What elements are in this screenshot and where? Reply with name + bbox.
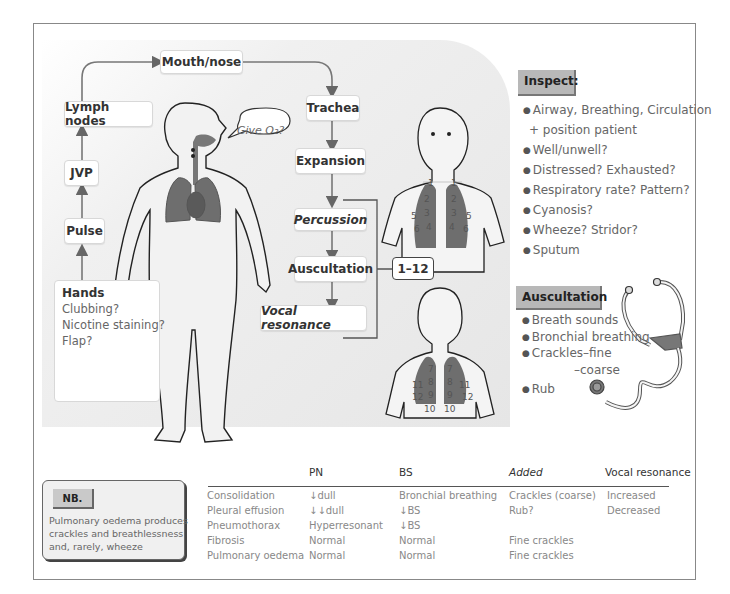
- inspect-item: ●Distressed? Exhausted?: [523, 160, 712, 180]
- table-cell: ↓BS: [399, 520, 420, 531]
- svg-text:10: 10: [444, 404, 456, 414]
- hands-item: Clubbing?: [62, 301, 152, 317]
- bullet-icon: ●: [522, 348, 530, 358]
- table-header-added: Added: [509, 466, 543, 478]
- hands-item: Flap?: [62, 333, 152, 349]
- svg-text:3: 3: [451, 208, 457, 218]
- svg-text:4: 4: [449, 222, 455, 232]
- svg-text:7: 7: [428, 364, 434, 374]
- svg-text:1: 1: [428, 178, 434, 188]
- svg-text:2: 2: [451, 194, 457, 204]
- table-cell: Bronchial breathing: [399, 490, 497, 501]
- svg-text:5: 5: [466, 211, 472, 221]
- vocal-resonance-label: Vocal resonance: [261, 304, 366, 332]
- table-header-bs: BS: [399, 466, 413, 478]
- pulse-label: Pulse: [66, 224, 103, 238]
- auscultation-item: ●Rub: [522, 381, 650, 398]
- box-pulse: Pulse: [64, 218, 105, 244]
- table-cell: Hyperresonant: [309, 520, 383, 531]
- auscultation-item: ●Breath sounds: [522, 312, 650, 329]
- table-cell: Fine crackles: [509, 550, 574, 561]
- mouth-nose-label: Mouth/nose: [162, 55, 241, 69]
- inspect-item: ●Airway, Breathing, Circulation: [523, 100, 712, 120]
- chest-points-label: 1–12: [392, 257, 434, 280]
- table-cell: Crackles (coarse): [509, 490, 596, 501]
- bullet-icon: ●: [523, 205, 531, 215]
- bullet-icon: ●: [522, 332, 530, 342]
- svg-text:6: 6: [463, 224, 469, 234]
- bullet-icon: ●: [523, 105, 531, 115]
- trachea-label: Trachea: [307, 101, 360, 115]
- box-percussion: Percussion: [294, 208, 367, 231]
- table-divider: [208, 486, 669, 487]
- box-expansion: Expansion: [295, 148, 366, 174]
- hands-item: Nicotine staining?: [62, 317, 152, 333]
- svg-text:9: 9: [447, 390, 453, 400]
- table-cell: Fibrosis: [207, 535, 244, 546]
- nb-note-box: NB. Pulmonary oedema produces crackles a…: [42, 480, 185, 560]
- table-cell: Pulmonary oedema: [207, 550, 304, 561]
- box-trachea: Trachea: [306, 95, 360, 121]
- svg-text:11: 11: [412, 380, 423, 390]
- auscultation-item: ●Crackles–fine: [522, 345, 650, 362]
- inspect-item: + position patient: [523, 120, 712, 140]
- inspect-item: ●Well/unwell?: [523, 140, 712, 160]
- svg-text:6: 6: [414, 224, 420, 234]
- inspect-item: ●Cyanosis?: [523, 200, 712, 220]
- svg-text:4: 4: [426, 222, 432, 232]
- inspect-item: ●Wheeze? Stridor?: [523, 220, 712, 240]
- bullet-icon: ●: [523, 165, 531, 175]
- hands-title: Hands: [62, 286, 152, 300]
- table-cell: Pneumothorax: [207, 520, 280, 531]
- table-cell: Pleural effusion: [207, 505, 284, 516]
- svg-text:10: 10: [424, 404, 436, 414]
- svg-text:11: 11: [459, 380, 470, 390]
- auscultation-heading: Auscultation: [516, 286, 602, 310]
- svg-text:5: 5: [411, 211, 417, 221]
- auscultation-label: Auscultation: [288, 262, 373, 276]
- bullet-icon: ●: [523, 225, 531, 235]
- inspect-list: ●Airway, Breathing, Circulation + positi…: [523, 100, 712, 260]
- speech-bubble-text: Give O₂?: [237, 124, 284, 137]
- inspect-heading: Inspect:: [518, 70, 576, 96]
- table-cell: Normal: [309, 550, 345, 561]
- svg-text:7: 7: [447, 364, 453, 374]
- table-header-vocal-resonance: Vocal resonance: [605, 466, 691, 478]
- box-jvp: JVP: [64, 160, 99, 186]
- inspect-item: ●Sputum: [523, 240, 712, 260]
- back-chest-figure: 77 88 99 1010 1111 1212: [386, 288, 494, 418]
- bullet-icon: ●: [522, 315, 530, 325]
- table-cell: Decreased: [607, 505, 660, 516]
- auscultation-item: ●Bronchial breathing: [522, 329, 650, 346]
- table-header-pn: PN: [309, 466, 323, 478]
- percussion-label: Percussion: [294, 213, 367, 227]
- inspect-item: ●Respiratory rate? Pattern?: [523, 180, 712, 200]
- box-mouth-nose: Mouth/nose: [160, 50, 243, 74]
- svg-text:9: 9: [428, 390, 434, 400]
- svg-text:8: 8: [428, 377, 434, 387]
- svg-text:3: 3: [424, 208, 430, 218]
- bullet-icon: ●: [523, 185, 531, 195]
- table-cell: Increased: [607, 490, 656, 501]
- table-cell: Fine crackles: [509, 535, 574, 546]
- svg-text:8: 8: [447, 377, 453, 387]
- table-cell: Rub?: [509, 505, 534, 516]
- hands-box: Hands Clubbing? Nicotine staining? Flap?: [54, 280, 160, 402]
- svg-text:2: 2: [424, 194, 430, 204]
- bullet-icon: ●: [523, 145, 531, 155]
- nb-text: Pulmonary oedema produces crackles and b…: [49, 514, 188, 553]
- table-cell: ↓↓dull: [309, 505, 344, 516]
- table-cell: ↓BS: [399, 505, 420, 516]
- svg-text:1: 1: [451, 178, 457, 188]
- bullet-icon: ●: [523, 245, 531, 255]
- svg-text:12: 12: [412, 392, 423, 402]
- box-vocal-resonance: Vocal resonance: [260, 305, 367, 331]
- box-lymph-nodes: Lymph nodes: [64, 101, 153, 127]
- box-auscultation: Auscultation: [294, 256, 367, 282]
- bracket-label-text: 1–12: [397, 262, 428, 276]
- nb-tag: NB.: [53, 489, 94, 509]
- auscultation-item: –coarse: [522, 362, 650, 379]
- svg-text:12: 12: [462, 392, 473, 402]
- table-cell: ↓dull: [309, 490, 336, 501]
- bullet-icon: ●: [522, 384, 530, 394]
